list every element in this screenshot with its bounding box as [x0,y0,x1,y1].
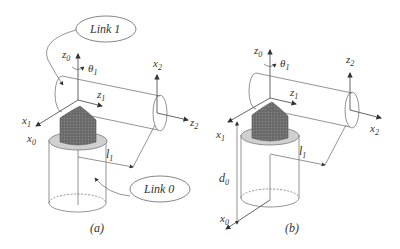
label-x1-b: x1 [215,128,225,143]
label-l1: l1 [106,147,113,163]
x0-axis-b [226,200,270,229]
label-z1: z1 [96,88,105,103]
label-x2: x2 [152,57,162,72]
link0-callout-text: Link 0 [143,182,174,196]
joint-body [60,106,96,145]
label-z0: z0 [61,48,70,63]
label-x1: x1 [21,114,31,129]
z2-axis [157,113,188,120]
label-theta1: θ1 [88,62,97,77]
l1-dimension-b [270,154,325,165]
label-z2: z2 [189,116,198,131]
figure-b: z0 θ1 z2 z1 x2 x1 l1 d0 x0 (b) [215,44,381,235]
link0-cylinder [49,140,106,212]
label-d0-b: d0 [219,171,229,187]
x2-axis-b [350,110,381,118]
label-z0-b: z0 [253,44,262,59]
joint-body-b [252,102,288,141]
caption-a: (a) [90,221,104,235]
label-x0-b: x0 [219,212,229,227]
label-x2-b: x2 [369,122,379,137]
link0-callout-pointer [95,178,130,196]
label-x0: x0 [26,132,36,147]
label-z1-b: z1 [289,86,298,101]
caption-b: (b) [285,221,299,235]
link1-callout-text: Link 1 [89,22,120,36]
z1-axis [78,100,102,106]
label-z2-b: z2 [345,53,354,68]
figure-a: Link 1 Link 0 z0 θ1 x2 z1 z2 x1 x0 l1 (a… [21,16,198,235]
label-theta1-b: θ1 [280,57,289,72]
label-l1-b: l1 [299,144,306,160]
